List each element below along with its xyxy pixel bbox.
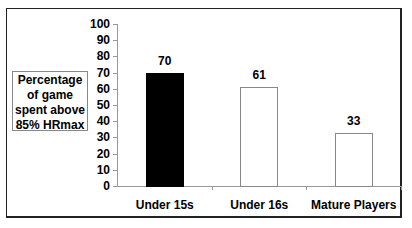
- data-label: 61: [229, 69, 289, 81]
- y-tick: [113, 121, 117, 122]
- y-axis-label-line-3: spent above: [13, 103, 87, 118]
- y-axis-label-box: Percentage of game spent above 85% HRmax: [12, 71, 88, 131]
- category-label: Under 16s: [209, 199, 309, 211]
- y-tick: [113, 154, 117, 155]
- y-tick-label: 80: [80, 50, 110, 62]
- y-tick-label: 40: [80, 115, 110, 127]
- y-tick-label: 100: [80, 18, 110, 30]
- y-tick-label: 30: [80, 131, 110, 143]
- y-tick: [113, 137, 117, 138]
- y-tick-label: 60: [80, 83, 110, 95]
- y-tick-label: 70: [80, 67, 110, 79]
- y-axis-label-line-1: Percentage: [13, 73, 87, 88]
- y-tick: [113, 56, 117, 57]
- y-tick: [113, 186, 117, 187]
- y-tick: [113, 105, 117, 106]
- bar-under-15s: [146, 73, 184, 187]
- y-tick: [113, 73, 117, 74]
- x-tick: [212, 186, 213, 190]
- y-tick-label: 10: [80, 164, 110, 176]
- x-tick: [306, 186, 307, 190]
- y-axis-label-line-2: of game: [13, 88, 87, 103]
- y-tick: [113, 170, 117, 171]
- y-axis-label-line-4: 85% HRmax: [13, 118, 87, 133]
- y-tick: [113, 89, 117, 90]
- category-label: Mature Players: [304, 199, 404, 211]
- y-tick-label: 50: [80, 99, 110, 111]
- x-tick: [401, 186, 402, 190]
- bar-mature-players: [335, 133, 373, 187]
- category-label: Under 15s: [115, 199, 215, 211]
- y-tick-label: 90: [80, 34, 110, 46]
- data-label: 70: [135, 55, 195, 67]
- y-tick: [113, 40, 117, 41]
- y-tick-label: 20: [80, 148, 110, 160]
- bar-under-16s: [240, 87, 278, 187]
- y-axis: [117, 24, 118, 186]
- y-tick: [113, 24, 117, 25]
- data-label: 33: [324, 115, 384, 127]
- y-tick-label: 0: [80, 180, 110, 192]
